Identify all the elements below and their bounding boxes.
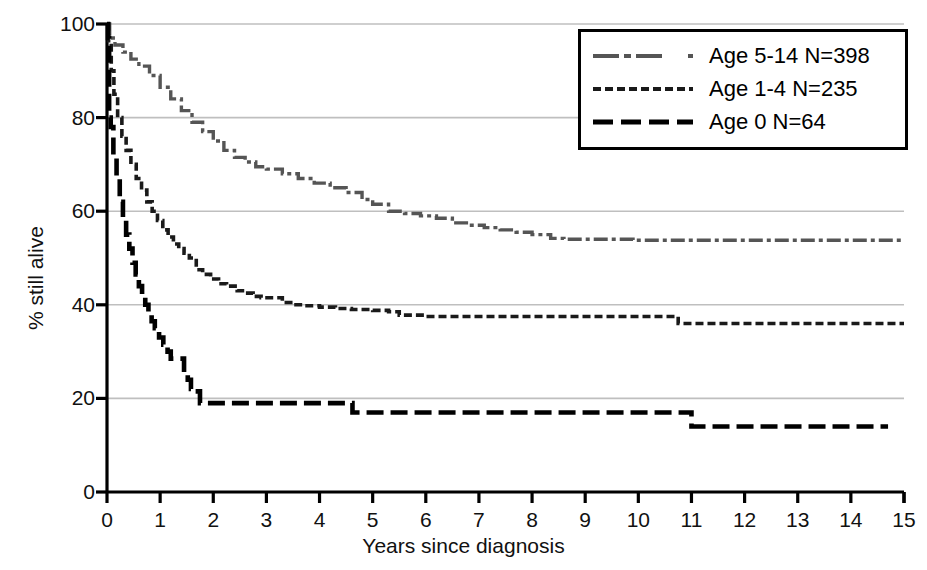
y-axis-title: % still alive: [24, 226, 48, 330]
y-tick-label: 80: [40, 106, 95, 130]
legend-swatch-age-5-14: [593, 50, 693, 62]
x-tick-label: 3: [261, 508, 273, 532]
legend-swatch-age-0: [593, 116, 693, 128]
x-tick-label: 10: [627, 508, 650, 532]
legend-label-age-0: Age 0 N=64: [709, 109, 826, 135]
survival-chart: 020406080100 0123456789101112131415 % st…: [0, 0, 927, 570]
x-tick-label: 4: [314, 508, 326, 532]
legend-label-age-5-14: Age 5-14 N=398: [709, 43, 870, 69]
y-tick-label: 20: [40, 386, 95, 410]
legend-item: Age 0 N=64: [593, 105, 895, 138]
x-tick-label: 8: [526, 508, 538, 532]
x-tick-label: 1: [154, 508, 166, 532]
x-tick-label: 0: [101, 508, 113, 532]
x-tick-label: 5: [367, 508, 379, 532]
y-tick-label: 40: [40, 293, 95, 317]
x-tick-label: 15: [892, 508, 915, 532]
x-tick-label: 7: [473, 508, 485, 532]
x-tick-label: 13: [786, 508, 809, 532]
y-tick-label: 60: [40, 199, 95, 223]
legend: Age 5-14 N=398 Age 1-4 N=235 Age 0 N=64: [578, 29, 908, 150]
x-tick-label: 11: [681, 508, 703, 532]
x-tick-label: 2: [207, 508, 219, 532]
y-tick-label: 100: [40, 12, 95, 36]
legend-item: Age 1-4 N=235: [593, 72, 895, 105]
x-tick-label: 9: [579, 508, 591, 532]
legend-item: Age 5-14 N=398: [593, 39, 895, 72]
x-axis-title: Years since diagnosis: [0, 534, 927, 558]
x-tick-label: 12: [733, 508, 756, 532]
y-tick-label: 0: [40, 480, 95, 504]
legend-swatch-age-1-4: [593, 83, 693, 95]
x-tick-label: 14: [839, 508, 862, 532]
legend-label-age-1-4: Age 1-4 N=235: [709, 76, 858, 102]
x-tick-label: 6: [420, 508, 432, 532]
